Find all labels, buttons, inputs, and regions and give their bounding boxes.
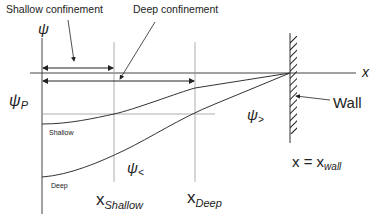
shallow-callout-line <box>68 20 74 61</box>
wall-hatch <box>290 36 297 134</box>
wall-callout-line <box>296 96 330 100</box>
x-axis-label: x <box>361 64 370 80</box>
shallow-curve-label: Shallow <box>49 129 74 136</box>
deep-curve <box>42 73 290 177</box>
x-wall-equation: x = xwall <box>292 153 342 172</box>
x-deep-label: xDeep <box>187 188 222 209</box>
wall-label: Wall <box>333 94 362 111</box>
shallow-confinement-label: Shallow confinement <box>6 3 103 15</box>
psi-p-label: ψP <box>9 92 29 111</box>
psi-axis-label: ψ <box>38 20 49 37</box>
deep-confinement-label: Deep confinement <box>133 3 218 15</box>
confinement-diagram: Shallow confinement Deep confinement ψ x… <box>0 0 376 223</box>
x-shallow-label: xShallow <box>96 190 144 211</box>
psi-less-label: ψ< <box>127 159 144 178</box>
deep-curve-label: Deep <box>51 182 68 190</box>
deep-callout-line <box>120 22 155 79</box>
psi-greater-label: ψ> <box>247 106 264 125</box>
